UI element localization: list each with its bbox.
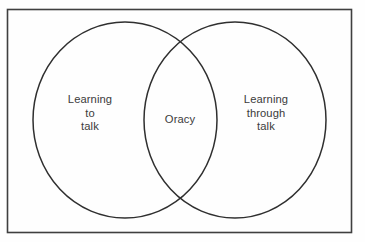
left-circle-label: Learning to talk	[68, 93, 112, 134]
intersection-label: Oracy	[165, 113, 195, 127]
venn-diagram-figure: Learning to talk Oracy Learning through …	[0, 0, 365, 242]
right-circle-label: Learning through talk	[244, 93, 288, 134]
